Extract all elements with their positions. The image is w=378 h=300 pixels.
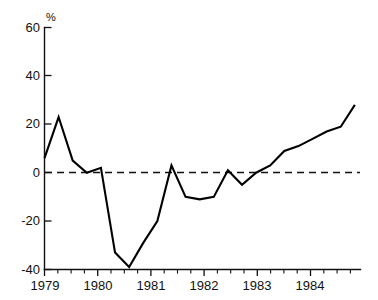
y-tick-label-60: 60 — [0, 21, 40, 34]
x-tick-label-1982: 1982 — [178, 279, 230, 292]
x-tick-label-1981: 1981 — [125, 279, 177, 292]
y-tick-label-20: 20 — [0, 117, 40, 130]
y-tick-label-0: 0 — [0, 166, 40, 179]
x-tick-label-1979: 1979 — [19, 279, 71, 292]
x-tick-label-1983: 1983 — [231, 279, 283, 292]
y-axis-unit-label: % — [46, 12, 56, 23]
y-tick-label-40: 40 — [0, 69, 40, 82]
chart-container: % 60 40 20 0 -20 -40 1979 1980 1981 1982… — [0, 0, 378, 300]
x-tick-label-1980: 1980 — [72, 279, 124, 292]
chart-plot-area — [0, 0, 378, 300]
x-tick-marks — [45, 270, 351, 277]
y-tick-label-minus40: -40 — [0, 263, 40, 276]
y-tick-label-minus20: -20 — [0, 214, 40, 227]
x-tick-label-1984: 1984 — [284, 279, 336, 292]
data-series-line — [45, 105, 355, 267]
